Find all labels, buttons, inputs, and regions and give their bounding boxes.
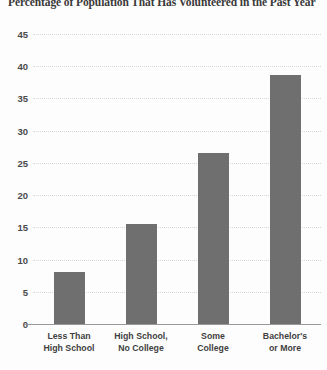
bar [198, 153, 229, 324]
bar [126, 224, 157, 324]
plot-area [33, 34, 321, 324]
x-axis-tick-label: SomeCollege [180, 330, 246, 353]
y-axis-tick-label: 20 [2, 190, 28, 201]
x-axis-label-line: Bachelor's [252, 330, 318, 342]
x-axis-tick-label: Less ThanHigh School [36, 330, 102, 353]
x-axis-label-line: Less Than [36, 330, 102, 342]
x-axis-labels: Less ThanHigh SchoolHigh School,No Colle… [33, 330, 321, 366]
bar [270, 75, 301, 324]
y-axis-tick-label: 15 [2, 222, 28, 233]
x-axis-label-line: High School, [108, 330, 174, 342]
y-axis-tick-label: 10 [2, 254, 28, 265]
x-axis-tick-label: Bachelor'sor More [252, 330, 318, 353]
gridline [33, 66, 321, 67]
bar-chart: Percentage of Population That Has Volunt… [0, 0, 327, 370]
chart-title: Percentage of Population That Has Volunt… [8, 0, 323, 9]
y-axis-tick-label: 5 [2, 286, 28, 297]
y-axis-tick-label: 40 [2, 61, 28, 72]
y-axis-tick-label: 35 [2, 93, 28, 104]
x-axis-label-line: or More [252, 342, 318, 354]
y-axis-tick-label: 45 [2, 29, 28, 40]
x-axis-line [24, 324, 321, 325]
y-axis-tick-label: 30 [2, 125, 28, 136]
x-axis-label-line: College [180, 342, 246, 354]
y-axis: 051015202530354045 [0, 34, 28, 324]
bar [54, 272, 85, 324]
x-axis-tick-label: High School,No College [108, 330, 174, 353]
x-axis-label-line: High School [36, 342, 102, 354]
y-axis-tick-label: 25 [2, 157, 28, 168]
x-axis-label-line: No College [108, 342, 174, 354]
gridline [33, 34, 321, 35]
x-axis-label-line: Some [180, 330, 246, 342]
